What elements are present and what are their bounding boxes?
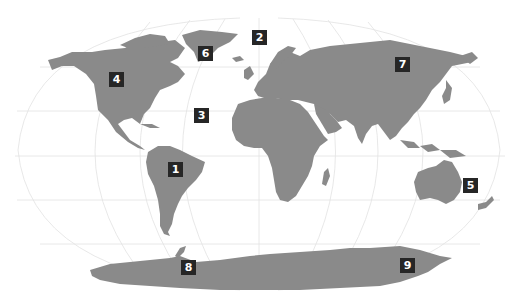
landmasses — [48, 30, 494, 290]
region-marker-1[interactable]: 1 — [168, 162, 183, 177]
region-marker-6[interactable]: 6 — [198, 46, 213, 61]
region-marker-2[interactable]: 2 — [252, 30, 267, 45]
africa — [232, 98, 328, 202]
antarctica — [90, 246, 452, 290]
south-america — [146, 146, 205, 236]
region-marker-3[interactable]: 3 — [194, 108, 209, 123]
north-america — [48, 38, 185, 150]
world-map — [0, 0, 518, 300]
region-marker-9[interactable]: 9 — [400, 258, 415, 273]
region-marker-8[interactable]: 8 — [181, 260, 196, 275]
region-marker-5[interactable]: 5 — [463, 178, 478, 193]
region-marker-4[interactable]: 4 — [109, 72, 124, 87]
australia — [414, 160, 462, 204]
region-marker-7[interactable]: 7 — [395, 57, 410, 72]
